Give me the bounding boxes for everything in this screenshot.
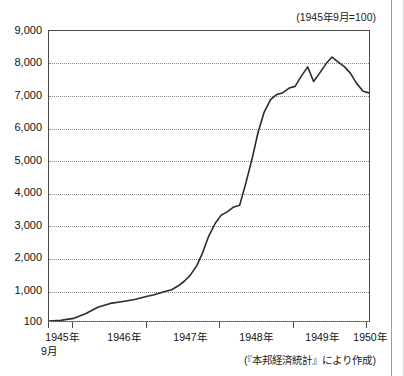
y-axis-label-7000: 7,000	[0, 89, 42, 101]
x-axis-label-1945: 1945年	[45, 329, 78, 344]
y-axis-label-1000: 1,000	[0, 284, 42, 296]
x-axis-label-1946: 1946年	[107, 329, 140, 344]
x-tick-1946	[72, 322, 73, 328]
x-tick-1949	[293, 322, 294, 328]
x-tick-1945	[48, 322, 49, 328]
x-tick-1948	[219, 322, 220, 328]
x-axis-label-1949: 1949年	[305, 329, 338, 344]
y-axis-label-3000: 3,000	[0, 219, 42, 231]
plot-area	[48, 30, 370, 322]
x-tick-1947	[146, 322, 147, 328]
figure-title	[0, 0, 380, 2]
gridline-100	[49, 321, 369, 322]
y-axis-label-8000: 8,000	[0, 56, 42, 68]
y-axis-label-9000: 9,000	[0, 24, 42, 36]
page-edge-rule	[391, 0, 392, 376]
source-note: (『本邦経済統計』により作成)	[244, 352, 376, 367]
y-axis-label-5000: 5,000	[0, 154, 42, 166]
unit-note: (1945年9月=100)	[296, 9, 376, 24]
figure-root: (1945年9月=100) 9,000 8,000 7,000 6,000 5,…	[0, 0, 404, 376]
x-tick-1950	[366, 322, 367, 328]
price-index-line	[49, 31, 369, 321]
x-axis-sublabel-9gatsu: 9月	[41, 343, 57, 358]
x-axis-label-1950: 1950年	[353, 329, 386, 344]
y-axis-label-100: 100	[0, 315, 42, 327]
y-axis-label-2000: 2,000	[0, 251, 42, 263]
x-axis-label-1947: 1947年	[173, 329, 206, 344]
y-axis-label-4000: 4,000	[0, 186, 42, 198]
x-axis-label-1948: 1948年	[239, 329, 272, 344]
y-axis-label-6000: 6,000	[0, 121, 42, 133]
